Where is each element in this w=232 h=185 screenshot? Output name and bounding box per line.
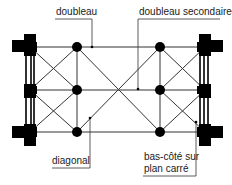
label-bas-cote-line1: bas-côté sur	[144, 151, 199, 163]
horizontal-ribs	[30, 47, 205, 132]
label-diagonal: diagonal	[52, 155, 90, 167]
leader-dots	[89, 46, 198, 124]
label-doubleau-secondaire: doubleau secondaire	[139, 6, 232, 18]
label-bas-cote-line2: plan carré	[144, 163, 188, 175]
label-doubleau: doubleau	[56, 6, 97, 18]
left-piers	[12, 34, 37, 146]
right-piers	[197, 34, 223, 146]
